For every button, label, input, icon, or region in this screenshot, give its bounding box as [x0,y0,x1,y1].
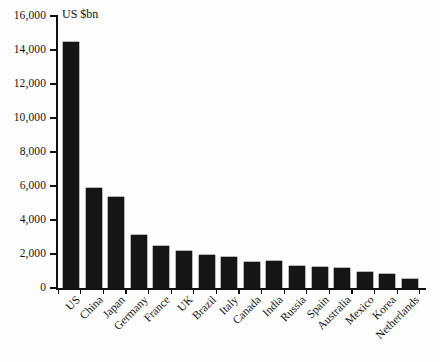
y-axis-tick [50,117,56,118]
y-axis-tick-label: 0 [40,282,46,294]
bar [63,42,79,288]
y-axis-tick [50,219,56,220]
y-axis-tick-label: 8,000 [20,146,46,158]
y-axis-tick [50,253,56,254]
y-axis-tick-label: 10,000 [14,112,46,124]
y-axis-tick [50,49,56,50]
y-axis-line [56,15,58,289]
y-axis-unit-label: US $bn [62,8,98,21]
y-axis-tick-label: 6,000 [20,180,46,192]
y-axis-tick [50,83,56,84]
y-axis-tick [50,287,56,288]
y-axis-tick-label: 14,000 [14,44,46,56]
y-axis-tick [50,15,56,16]
y-axis-tick [50,185,56,186]
y-axis-tick-label: 12,000 [14,78,46,90]
bar [86,188,102,288]
bar-chart: US $bn 02,0004,0006,0008,00010,00012,000… [0,0,440,362]
x-axis-tick [58,289,59,294]
y-axis-tick [50,151,56,152]
y-axis-tick-label: 16,000 [14,10,46,22]
y-axis-tick-label: 4,000 [20,214,46,226]
y-axis-tick-label: 2,000 [20,248,46,260]
